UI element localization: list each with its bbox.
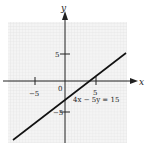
x-axis-arrow-icon [130, 78, 138, 84]
origin-label: 0 [58, 85, 62, 93]
y-tick-label-5: 5 [55, 51, 59, 59]
coordinate-plane: y x 0 −5 5 5 −5 4x − 5y = 15 [0, 0, 146, 147]
grid [8, 22, 127, 143]
equation-label: 4x − 5y = 15 [73, 96, 119, 104]
y-axis-label: y [60, 3, 67, 13]
x-axis-label: x [139, 77, 144, 87]
y-tick-label-neg5: −5 [53, 109, 63, 117]
x-tick-label-neg5: −5 [29, 90, 39, 98]
